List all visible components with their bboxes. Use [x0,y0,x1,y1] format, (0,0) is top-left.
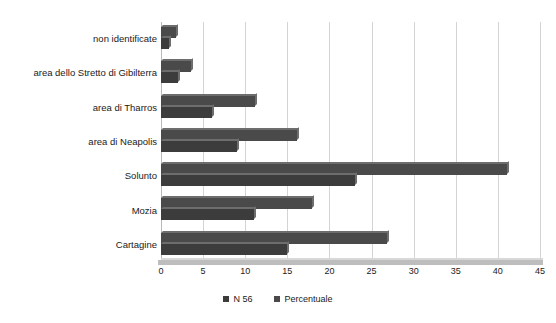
y-axis-category-labels: non identificatearea dello Stretto di Gi… [0,22,157,262]
category-label: area di Tharros [5,102,157,113]
bar-group [161,228,540,262]
bar-n56 [161,175,355,186]
x-tick-label-20: 20 [324,265,334,277]
bar-group [161,22,540,56]
x-axis-baseline-top [161,258,543,260]
category-label: area dello Stretto di Gibilterra [5,67,157,78]
bar-group [161,56,540,90]
bar-n56 [161,209,254,220]
x-tick-label-25: 25 [367,265,377,277]
bar-n56 [161,72,178,83]
bar-group [161,159,540,193]
category-label: Cartagine [5,239,157,250]
legend-swatch-icon [274,296,280,302]
category-label: Solunto [5,170,157,181]
chart-legend: N 56Percentuale [0,294,556,304]
legend-swatch-icon [223,296,229,302]
bar-n56 [161,38,169,49]
category-label: Mozia [5,205,157,216]
bar-n56 [161,107,212,118]
x-tick-label-10: 10 [240,265,250,277]
bar-group [161,91,540,125]
category-label: area di Neapolis [5,136,157,147]
legend-item[interactable]: Percentuale [274,294,332,304]
bar-group [161,125,540,159]
plot-area [161,22,540,262]
bar-chart: non identificatearea dello Stretto di Gi… [0,0,556,323]
x-tick-label-5: 5 [201,265,206,277]
bar-n56 [161,141,237,152]
x-tick-label-45: 45 [535,265,545,277]
x-axis-tick-labels: 051015202530354045 [161,265,540,279]
x-tick-label-40: 40 [493,265,503,277]
bar-group [161,193,540,227]
legend-item[interactable]: N 56 [223,294,252,304]
bar-n56 [161,244,287,255]
x-tick-label-35: 35 [451,265,461,277]
category-label: non identificate [5,33,157,44]
x-tick-label-30: 30 [409,265,419,277]
gridline-45 [540,22,541,262]
x-tick-label-0: 0 [158,265,163,277]
legend-label: N 56 [233,294,252,304]
legend-label: Percentuale [284,294,332,304]
x-tick-label-15: 15 [282,265,292,277]
